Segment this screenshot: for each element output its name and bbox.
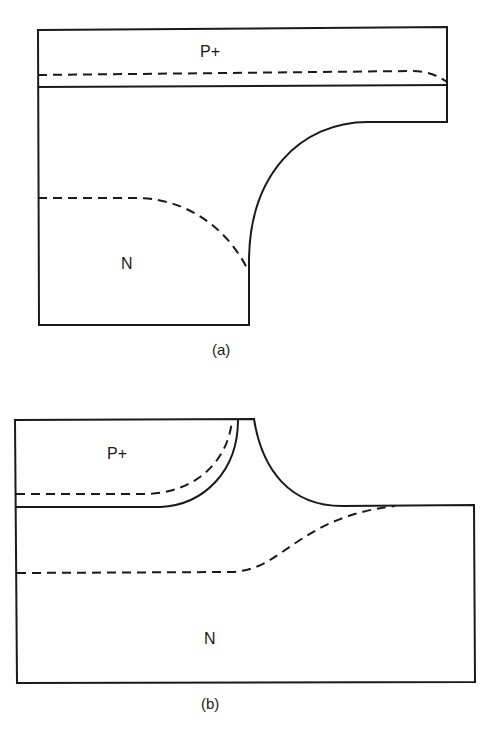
figure-a-caption: (a): [212, 341, 230, 358]
figure-b-n-label: N: [204, 630, 216, 647]
figure-b: P+ N (b): [15, 419, 475, 712]
figure-a-p-label: P+: [200, 43, 220, 60]
figure-a-depletion-edge-n: [38, 198, 248, 270]
figure-b-p-label: P+: [107, 445, 127, 462]
figure-a-depletion-edge-p: [38, 71, 447, 82]
figure-b-outline: [15, 419, 475, 683]
diagram-canvas: P+ N (a) P+ N (b): [0, 0, 498, 732]
figure-b-depletion-edge-n: [17, 506, 395, 573]
figure-a-n-label: N: [121, 255, 133, 272]
figure-a-junction-line: [38, 85, 447, 87]
figure-b-caption: (b): [201, 695, 219, 712]
figure-a: P+ N (a): [38, 27, 447, 358]
